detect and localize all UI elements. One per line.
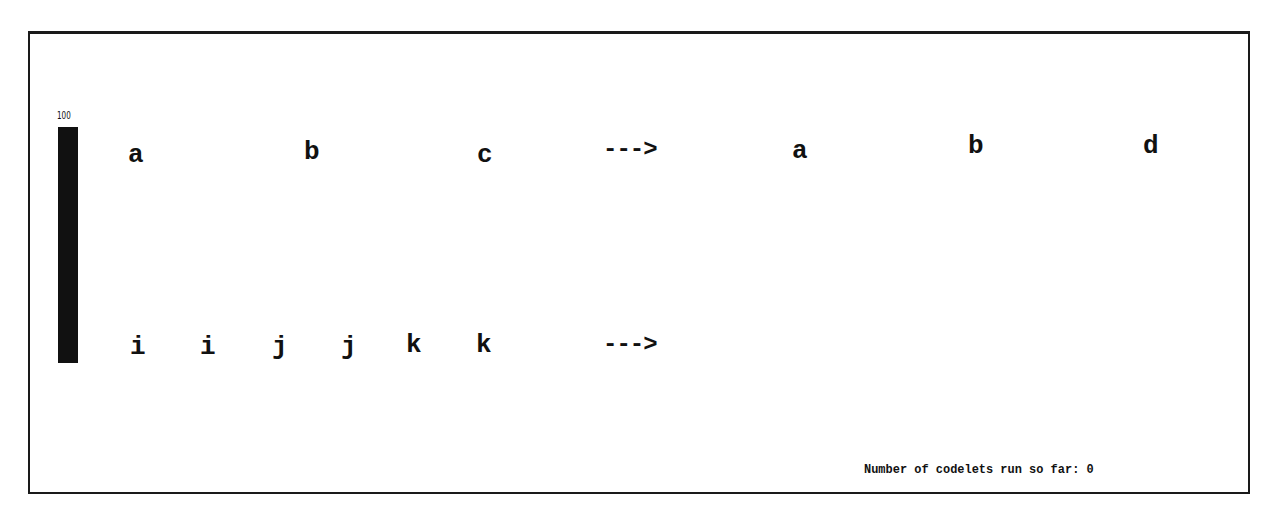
initial-letter: b <box>304 139 320 165</box>
modified-letter: b <box>968 133 984 159</box>
target-arrow: ---> <box>603 333 657 357</box>
temperature-bar <box>58 127 78 363</box>
target-letter: j <box>341 334 357 360</box>
temperature-label: 100 <box>57 110 71 121</box>
modified-letter: d <box>1143 133 1159 159</box>
initial-letter: a <box>128 142 144 168</box>
workspace-frame <box>28 31 1250 494</box>
modified-letter: a <box>792 138 808 164</box>
initial-arrow: ---> <box>603 138 657 162</box>
target-letter: k <box>406 332 422 358</box>
target-letter: j <box>272 334 288 360</box>
initial-letter: c <box>477 142 493 168</box>
target-letter: k <box>476 332 492 358</box>
target-letter: i <box>130 334 146 360</box>
codelet-count-status: Number of codelets run so far: 0 <box>864 462 1094 477</box>
target-letter: i <box>200 334 216 360</box>
